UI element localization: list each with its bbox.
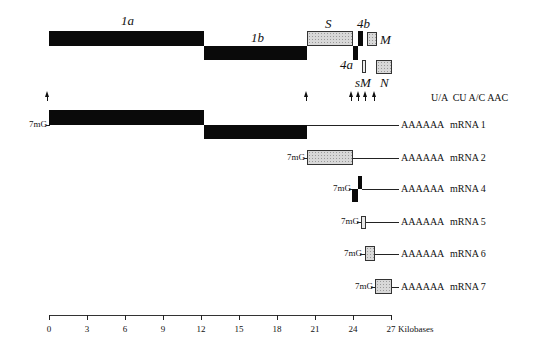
cap-label: 7mG bbox=[29, 120, 47, 129]
mrna-1-orf1a bbox=[49, 110, 204, 125]
polya-tail: AAAAAA bbox=[401, 153, 444, 163]
mrna-label: mRNA 7 bbox=[450, 282, 486, 292]
orf-1b-label: 1b bbox=[251, 31, 264, 44]
cap-label: 7mG bbox=[287, 153, 305, 162]
orf-s-box bbox=[307, 31, 353, 46]
tick-label: 15 bbox=[235, 325, 244, 334]
orf-1a-label: 1a bbox=[121, 14, 134, 27]
orf-1b-box bbox=[204, 46, 307, 60]
polya-tail: AAAAAA bbox=[401, 217, 444, 227]
tick-label: 3 bbox=[85, 325, 90, 334]
axis-line bbox=[49, 315, 392, 316]
tick-label: 24 bbox=[349, 325, 358, 334]
tick-label: 21 bbox=[311, 325, 320, 334]
polya-tail: AAAAAA bbox=[401, 120, 444, 130]
mrna-6-orf-m bbox=[365, 246, 375, 261]
tas-sequence-label: U/A CU A/C AAC bbox=[431, 93, 508, 103]
mrna-label: mRNA 5 bbox=[450, 217, 486, 227]
mrna-2-orf-s bbox=[307, 150, 353, 165]
orf-m-box bbox=[367, 32, 377, 46]
mrna-label: mRNA 1 bbox=[450, 120, 486, 130]
mrna-4-orf-4a bbox=[352, 189, 358, 202]
mrna-label: mRNA 4 bbox=[450, 184, 486, 194]
mrna-7-orf-n bbox=[375, 279, 392, 294]
orf-sm-label: sM bbox=[355, 76, 371, 89]
polya-tail: AAAAAA bbox=[401, 184, 444, 194]
mrna-label: mRNA 2 bbox=[450, 153, 486, 163]
orf-4b-label: 4b bbox=[357, 17, 370, 30]
mrna-label: mRNA 6 bbox=[450, 249, 486, 259]
mrna-1-orf1b bbox=[204, 125, 307, 139]
mrna-1-line bbox=[307, 125, 399, 126]
orf-m-label: M bbox=[380, 33, 391, 46]
polya-tail: AAAAAA bbox=[401, 282, 444, 292]
orf-4a-box bbox=[353, 46, 358, 60]
polya-tail: AAAAAA bbox=[401, 249, 444, 259]
tick-label: 0 bbox=[47, 325, 52, 334]
orf-4a-label: 4a bbox=[340, 58, 353, 71]
tick-label: 18 bbox=[273, 325, 282, 334]
orf-1a-box bbox=[49, 31, 204, 46]
orf-4b-box bbox=[358, 31, 363, 46]
orf-sm-box bbox=[362, 60, 366, 73]
tick-label: 6 bbox=[123, 325, 128, 334]
orf-n-box bbox=[376, 60, 392, 74]
tick-label: 9 bbox=[161, 325, 166, 334]
tick-label: 27 bbox=[387, 325, 396, 334]
axis-unit-label: Kilobases bbox=[398, 325, 434, 334]
orf-s-label: S bbox=[325, 17, 332, 30]
orf-n-label: N bbox=[380, 76, 389, 89]
mrna-4-orf-4b bbox=[358, 176, 362, 189]
tick-label: 12 bbox=[197, 325, 206, 334]
